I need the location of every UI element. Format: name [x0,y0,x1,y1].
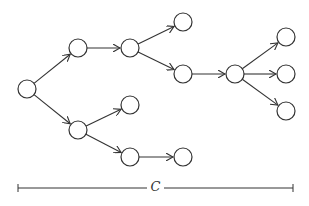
edge-arrow [34,54,70,83]
edge-arrow [242,43,278,69]
tree-node [277,102,295,120]
nodes [18,13,295,166]
edge-arrow [242,79,278,105]
edge-arrow [138,52,174,70]
edge-arrow [86,109,121,126]
tree-node [69,121,87,139]
tree-node [277,65,295,83]
tree-node [226,65,244,83]
tree-diagram [0,0,309,206]
tree-node [174,65,192,83]
edge-arrow [86,134,121,152]
tree-node [69,39,87,57]
tree-node [121,39,139,57]
tree-node [121,148,139,166]
tree-node [174,13,192,31]
tree-node [121,96,139,114]
tree-node [277,28,295,46]
edge-arrow [34,95,70,124]
edge-arrow [138,26,174,44]
tree-node [18,80,36,98]
span-label: C [147,180,165,194]
tree-node [174,148,192,166]
